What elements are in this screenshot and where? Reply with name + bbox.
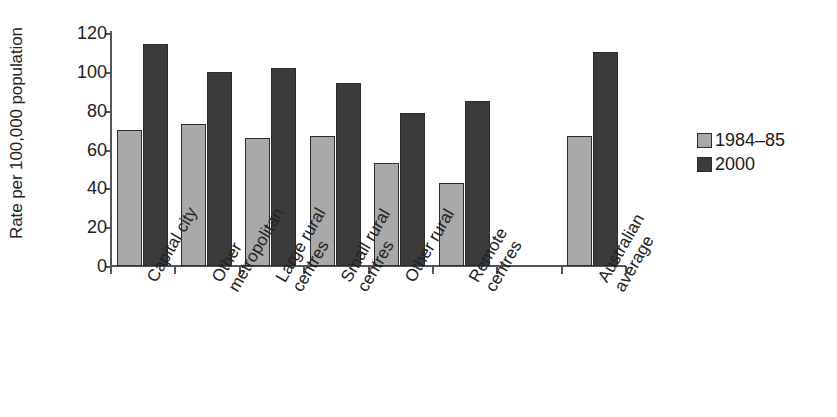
y-axis-tick-label: 80 bbox=[87, 100, 107, 121]
bar bbox=[567, 136, 592, 266]
bar bbox=[207, 72, 232, 266]
bar bbox=[181, 124, 206, 266]
chart-legend: 1984–85 2000 bbox=[697, 128, 785, 176]
chart-figure: Rate per 100,000 population 020406080100… bbox=[0, 0, 837, 417]
y-axis-title: Rate per 100,000 population bbox=[0, 0, 34, 266]
bar bbox=[593, 52, 618, 266]
bar bbox=[143, 44, 168, 266]
bar bbox=[271, 68, 296, 266]
y-axis-tick-label: 100 bbox=[77, 61, 107, 82]
y-axis-tick-label: 0 bbox=[97, 256, 107, 277]
legend-item-0[interactable]: 1984–85 bbox=[697, 128, 785, 152]
legend-label: 2000 bbox=[715, 154, 755, 175]
x-axis-tick-mark bbox=[561, 266, 563, 274]
bar bbox=[117, 130, 142, 266]
y-axis-tick-label: 60 bbox=[87, 139, 107, 160]
y-axis-tick-label: 120 bbox=[77, 23, 107, 44]
legend-swatch-icon bbox=[697, 157, 712, 172]
legend-item-1[interactable]: 2000 bbox=[697, 152, 785, 176]
x-axis-tick-mark bbox=[432, 266, 434, 274]
y-axis-tick-label: 40 bbox=[87, 178, 107, 199]
x-axis-tick-mark bbox=[110, 266, 112, 274]
legend-label: 1984–85 bbox=[715, 130, 785, 151]
y-axis-tick-label: 20 bbox=[87, 217, 107, 238]
x-axis-tick-mark bbox=[174, 266, 176, 274]
legend-swatch-icon bbox=[697, 133, 712, 148]
